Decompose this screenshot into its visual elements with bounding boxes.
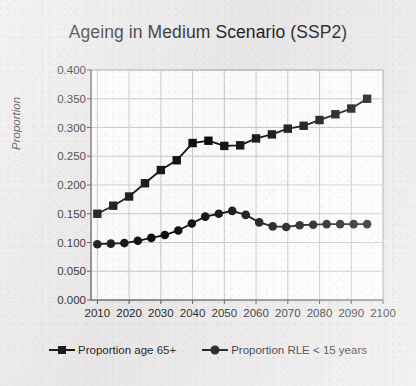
chart-legend: Proportion age 65+Proportion RLE < 15 ye… — [0, 344, 416, 356]
legend-item-label: Proportion RLE < 15 years — [231, 344, 367, 356]
legend-item[interactable]: Proportion RLE < 15 years — [202, 344, 367, 356]
data-point-marker — [336, 220, 345, 229]
data-point-marker — [174, 226, 183, 235]
data-point-marker — [331, 110, 339, 118]
data-point-marker — [107, 239, 116, 248]
data-point-marker — [309, 220, 318, 229]
chart-figure: Ageing in Medium Scenario (SSP2) Proport… — [0, 0, 416, 386]
plot-area — [0, 0, 416, 386]
data-point-marker — [241, 211, 250, 220]
data-point-marker — [134, 236, 143, 245]
data-point-marker — [315, 116, 323, 124]
data-point-marker — [120, 239, 129, 248]
data-point-marker — [141, 179, 149, 187]
data-point-marker — [228, 207, 237, 216]
data-point-marker — [125, 192, 133, 200]
data-point-marker — [295, 221, 304, 230]
legend-item[interactable]: Proportion age 65+ — [49, 344, 176, 356]
data-point-marker — [93, 240, 102, 249]
data-point-marker — [299, 122, 307, 130]
data-point-marker — [157, 166, 165, 174]
data-point-marker — [147, 234, 156, 243]
data-point-marker — [347, 104, 355, 112]
legend-marker-glyph — [211, 346, 220, 355]
data-point-marker — [363, 95, 371, 103]
data-point-marker — [220, 142, 228, 150]
data-point-marker — [187, 219, 196, 228]
circle-marker-icon — [202, 344, 228, 356]
data-point-marker — [214, 209, 223, 218]
data-point-marker — [284, 124, 292, 132]
data-point-marker — [172, 156, 180, 164]
data-point-marker — [204, 137, 212, 145]
legend-marker-glyph — [58, 346, 66, 354]
data-point-marker — [363, 220, 372, 229]
data-point-marker — [255, 218, 264, 227]
square-marker-icon — [49, 344, 75, 356]
data-point-marker — [93, 210, 101, 218]
data-point-marker — [268, 130, 276, 138]
data-point-marker — [236, 141, 244, 149]
data-point-marker — [160, 231, 169, 240]
data-point-marker — [252, 134, 260, 142]
legend-item-label: Proportion age 65+ — [78, 344, 176, 356]
data-point-marker — [109, 202, 117, 210]
data-point-marker — [268, 222, 277, 231]
data-point-marker — [201, 212, 210, 221]
data-point-marker — [282, 223, 291, 232]
data-point-marker — [322, 220, 331, 229]
data-point-marker — [349, 220, 358, 229]
data-point-marker — [188, 139, 196, 147]
